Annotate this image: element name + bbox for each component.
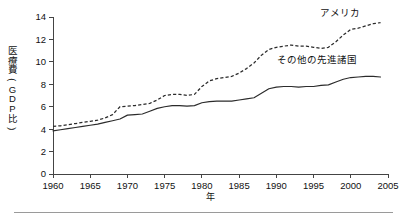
x-tick-label: 1980 bbox=[191, 180, 212, 191]
y-axis-title-char: ) bbox=[8, 127, 18, 130]
x-tick-label: 1965 bbox=[80, 180, 101, 191]
y-axis-title-char: 比 bbox=[8, 114, 18, 124]
y-tick-label: 10 bbox=[35, 56, 46, 67]
y-axis-title-char: ( bbox=[8, 78, 18, 81]
x-tick-label: 1975 bbox=[154, 180, 175, 191]
series-label-other-developed: その他の先進諸国 bbox=[277, 54, 357, 65]
x-tick-label: 1960 bbox=[42, 180, 63, 191]
chart-container: 02468101214 1960196519701975198019851990… bbox=[0, 0, 405, 224]
y-tick-labels-group: 02468101214 bbox=[35, 11, 46, 179]
y-tick-label: 4 bbox=[41, 124, 46, 135]
y-tick-label: 0 bbox=[41, 168, 46, 179]
x-tick-label: 1990 bbox=[266, 180, 287, 191]
y-tick-label: 14 bbox=[35, 11, 46, 22]
y-tick-label: 8 bbox=[41, 79, 46, 90]
x-tick-label: 1995 bbox=[303, 180, 324, 191]
footer-divider bbox=[14, 212, 393, 213]
y-tick-label: 6 bbox=[41, 101, 46, 112]
line-chart-figure: 02468101214 1960196519701975198019851990… bbox=[0, 0, 405, 224]
y-axis-title: 医療費(GDP比) bbox=[6, 46, 19, 133]
x-tick-label: 1970 bbox=[117, 180, 138, 191]
data-series-group bbox=[53, 23, 381, 131]
x-tick-label: 2005 bbox=[377, 180, 398, 191]
y-tick-label: 2 bbox=[41, 146, 46, 157]
x-tick-labels-group: 1960196519701975198019851990199520002005 bbox=[42, 180, 398, 191]
series-line-america bbox=[53, 23, 381, 127]
x-tick-label: 2000 bbox=[340, 180, 361, 191]
series-annotations-group: アメリカその他の先進諸国 bbox=[277, 7, 359, 65]
series-label-america: アメリカ bbox=[320, 7, 360, 18]
y-axis-title-char: 費 bbox=[8, 65, 18, 75]
x-tick-label: 1985 bbox=[229, 180, 250, 191]
y-tick-label: 12 bbox=[35, 34, 46, 45]
x-axis-title: 年 bbox=[206, 191, 215, 202]
series-line-other-developed bbox=[53, 76, 381, 130]
